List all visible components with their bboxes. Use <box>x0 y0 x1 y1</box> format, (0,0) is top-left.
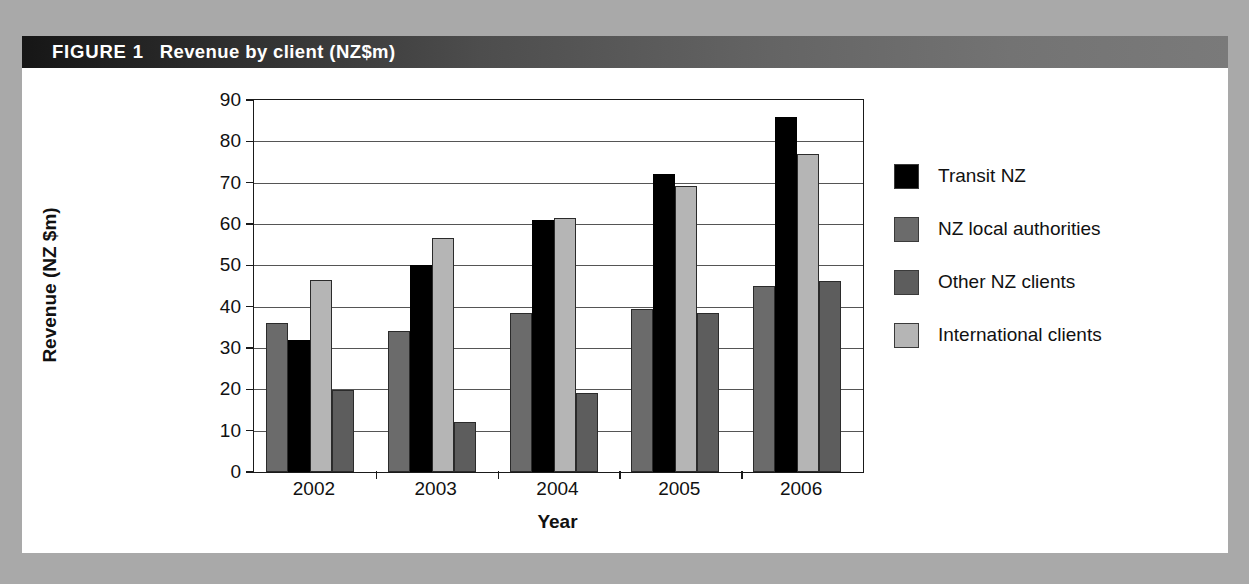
x-axis-tick-label-2005: 2005 <box>658 478 700 500</box>
bar-2006-other-nz-clients <box>819 281 841 472</box>
y-axis-title: Revenue (NZ $m) <box>37 99 63 471</box>
y-axis-tick <box>246 99 253 101</box>
x-axis-tick-labels: 20022003200420052006 <box>253 478 862 506</box>
x-axis-tick-label-2004: 2004 <box>536 478 578 500</box>
bar-2005-other-nz-clients <box>697 313 719 472</box>
legend-swatch-icon <box>894 217 919 242</box>
y-axis-tick <box>246 223 253 225</box>
bar-2005-transit-nz <box>653 174 675 472</box>
x-axis-tick-label-2006: 2006 <box>780 478 822 500</box>
legend-item-other-nz-clients: Other NZ clients <box>894 269 1194 295</box>
legend-item-transit-nz: Transit NZ <box>894 163 1194 189</box>
y-axis-tick-label: 40 <box>220 296 241 318</box>
legend-item-label: Transit NZ <box>938 165 1026 187</box>
y-axis-tick-label: 80 <box>220 130 241 152</box>
bar-2002-nz-local-authorities <box>266 323 288 472</box>
y-axis-tick-label: 70 <box>220 172 241 194</box>
y-axis-tick-label: 50 <box>220 254 241 276</box>
legend-swatch-icon <box>894 164 919 189</box>
chart-canvas: Revenue (NZ $m) 0102030405060708090 2002… <box>22 68 1228 553</box>
y-axis-tick-label: 10 <box>220 420 241 442</box>
bar-group-2004 <box>510 100 598 472</box>
bar-2004-international-clients <box>554 218 576 472</box>
legend-item-label: NZ local authorities <box>938 218 1101 240</box>
figure-title-text: Revenue by client (NZ$m) <box>160 41 396 63</box>
x-axis-tick-label-2003: 2003 <box>415 478 457 500</box>
legend-swatch-icon <box>894 270 919 295</box>
bar-2003-nz-local-authorities <box>388 331 410 472</box>
bar-2005-international-clients <box>675 186 697 472</box>
y-axis-tick <box>246 347 253 349</box>
y-axis-tick <box>246 430 253 432</box>
legend-item-nz-local-authorities: NZ local authorities <box>894 216 1194 242</box>
bar-2002-transit-nz <box>288 340 310 472</box>
figure-panel: FIGURE 1 Revenue by client (NZ$m) Revenu… <box>22 36 1228 553</box>
y-axis-tick-label: 20 <box>220 378 241 400</box>
y-axis-title-text: Revenue (NZ $m) <box>39 207 61 362</box>
bars-layer <box>254 100 863 472</box>
plot-area: 0102030405060708090 <box>253 99 864 473</box>
figure-number-label: FIGURE 1 <box>52 41 144 63</box>
y-axis-tick <box>246 471 253 473</box>
y-axis-tick <box>246 182 253 184</box>
legend-item-international-clients: International clients <box>894 322 1194 348</box>
bar-group-2002 <box>266 100 354 472</box>
bar-2002-other-nz-clients <box>332 390 354 472</box>
x-axis-tick-label-2002: 2002 <box>293 478 335 500</box>
bar-2004-transit-nz <box>532 220 554 472</box>
legend-item-label: International clients <box>938 324 1102 346</box>
legend-swatch-icon <box>894 323 919 348</box>
bar-2002-international-clients <box>310 280 332 472</box>
legend-item-label: Other NZ clients <box>938 271 1075 293</box>
y-axis-tick-label: 60 <box>220 213 241 235</box>
figure-title-bar: FIGURE 1 Revenue by client (NZ$m) <box>22 36 1228 68</box>
bar-2003-international-clients <box>432 238 454 472</box>
bar-2004-other-nz-clients <box>576 393 598 472</box>
y-axis-tick <box>246 141 253 143</box>
bar-2003-other-nz-clients <box>454 422 476 472</box>
bar-2006-nz-local-authorities <box>753 286 775 472</box>
bar-2003-transit-nz <box>410 265 432 472</box>
y-axis-tick <box>246 306 253 308</box>
y-axis-tick-label: 90 <box>220 89 241 111</box>
y-axis-tick-label: 30 <box>220 337 241 359</box>
y-axis-tick <box>246 389 253 391</box>
bar-2006-international-clients <box>797 154 819 472</box>
bar-2005-nz-local-authorities <box>631 309 653 472</box>
bar-2006-transit-nz <box>775 117 797 472</box>
bar-group-2005 <box>631 100 719 472</box>
bar-group-2006 <box>753 100 841 472</box>
y-axis-tick <box>246 265 253 267</box>
y-axis-tick-label: 0 <box>230 461 241 483</box>
bar-2004-nz-local-authorities <box>510 313 532 472</box>
x-axis-title: Year <box>253 511 862 533</box>
bar-group-2003 <box>388 100 476 472</box>
chart-legend: Transit NZNZ local authoritiesOther NZ c… <box>894 163 1194 375</box>
